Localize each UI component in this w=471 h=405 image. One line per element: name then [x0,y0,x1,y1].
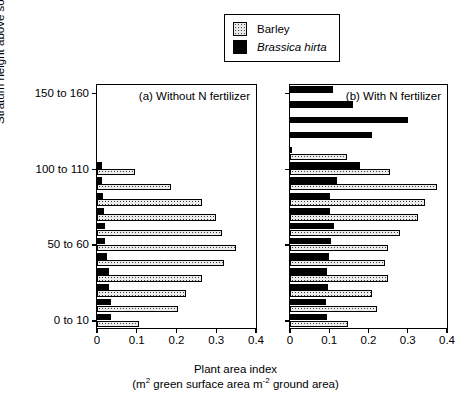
bar-group [290,298,447,313]
bar-brassica-hirta [97,238,105,244]
bar-barley [290,154,347,160]
y-axis-tick [285,244,290,245]
x-axis-title-line2: (m2 green surface area m-2 ground area) [0,377,471,392]
legend-label-barley: Barley [257,23,290,35]
x-axis-tick-label: 0.1 [129,334,145,346]
bar-barley [290,214,418,220]
y-axis-tick [285,320,290,321]
bar-group [290,191,447,206]
bar-group [97,222,256,237]
x-axis-tick [368,328,369,333]
bar-brassica-hirta [290,177,337,183]
panel-b-with-n-fertilizer: (b) With N fertilizer 00.10.20.30.4 [289,84,448,329]
bar-group [290,252,447,267]
bar-brassica-hirta [290,299,326,305]
bar-group [290,282,447,297]
bar-group [97,237,256,252]
bar-barley [97,260,224,266]
bar-brassica-hirta [290,132,372,138]
bar-barley [97,275,202,281]
bar-group [97,146,256,161]
bar-group [97,191,256,206]
bar-barley [97,199,202,205]
legend-swatch-brassica-hirta [233,40,247,54]
x-axis-tick-label: 0.4 [439,334,455,346]
legend-label-brassica-hirta: Brassica hirta [257,41,327,53]
bar-group [290,313,447,328]
bar-group [290,146,447,161]
x-axis-tick-label: 0.4 [248,334,264,346]
bar-brassica-hirta [290,253,329,259]
x-axis-tick-label: 0.2 [169,334,185,346]
panel-b-plot-area [290,85,447,328]
bar-brassica-hirta [97,223,105,229]
bar-group [97,131,256,146]
bar-brassica-hirta [97,299,111,305]
bar-brassica-hirta [97,177,102,183]
bar-group [290,176,447,191]
bar-group [97,267,256,282]
bar-barley [97,306,178,312]
bar-brassica-hirta [290,86,333,92]
bar-group [290,115,447,130]
bar-group [290,222,447,237]
legend-item-barley: Barley [233,20,327,38]
bar-barley [290,306,377,312]
bar-brassica-hirta [290,284,328,290]
x-axis-tick-label: 0.3 [400,334,416,346]
bar-brassica-hirta [290,162,360,168]
bar-brassica-hirta [97,208,104,214]
bar-barley [97,214,216,220]
y-axis-tick-label: 100 to 110 [35,163,89,175]
panel-a-without-n-fertilizer: (a) Without N fertilizer 00.10.20.30.415… [96,84,257,329]
bar-barley [290,260,385,266]
bar-group [97,161,256,176]
y-axis-tick [92,244,97,245]
y-axis-tick-label: 150 to 160 [35,87,89,99]
bar-barley [290,184,437,190]
bar-barley [97,230,222,236]
bar-group [290,267,447,282]
x-axis-tick-label: 0.2 [361,334,377,346]
bar-brassica-hirta [290,117,408,123]
x-axis-tick [446,328,447,333]
legend-item-brassica-hirta: Brassica hirta [233,38,327,56]
bar-group [97,100,256,115]
bar-barley [290,290,372,296]
panel-a-plot-area [97,85,256,328]
bar-brassica-hirta [290,268,327,274]
bar-brassica-hirta [290,147,292,153]
bar-group [290,131,447,146]
bar-group [290,100,447,115]
x-axis-tick-label: 0 [287,334,293,346]
bar-brassica-hirta [97,268,109,274]
x-axis-tick-label: 0.1 [321,334,337,346]
bar-group [97,207,256,222]
x-axis-tick [407,328,408,333]
y-axis-tick [285,169,290,170]
x-axis-tick [216,328,217,333]
y-axis-tick-label: 50 to 60 [47,238,89,250]
y-axis-tick [92,169,97,170]
bar-barley [290,321,348,327]
bar-group [290,207,447,222]
bar-barley [290,199,425,205]
legend-swatch-barley [233,22,247,36]
x-axis-tick-label: 0 [94,334,100,346]
bar-barley [290,169,390,175]
bar-group [97,313,256,328]
x-axis-tick-label: 0.3 [208,334,224,346]
bar-brassica-hirta [290,208,330,214]
bar-barley [97,245,236,251]
bar-brassica-hirta [290,223,334,229]
bar-brassica-hirta [97,314,111,320]
y-axis-tick [92,93,97,94]
bar-brassica-hirta [290,238,331,244]
bar-barley [97,184,171,190]
bar-brassica-hirta [97,193,103,199]
legend: Barley Brassica hirta [224,14,340,62]
bar-brassica-hirta [97,284,109,290]
bar-group [97,115,256,130]
bar-group [97,176,256,191]
bar-barley [97,169,135,175]
